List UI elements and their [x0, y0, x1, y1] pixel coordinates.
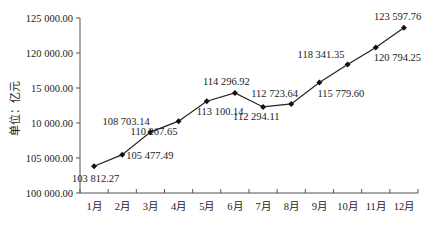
data-label: 112 723.64 [251, 88, 299, 99]
x-tick-label: 2月 [115, 201, 130, 212]
x-tick-label: 1月 [86, 201, 101, 212]
y-tick-label: 100 000.00 [26, 188, 73, 199]
x-tick-label: 8月 [284, 201, 299, 212]
data-label: 105 477.49 [126, 150, 173, 161]
data-labels: 103 812.27105 477.49108 703.14110 267.65… [72, 11, 421, 184]
x-tick-label: 6月 [227, 201, 242, 212]
diamond-marker-icon [260, 104, 266, 110]
diamond-marker-icon [91, 163, 97, 169]
x-tick-label: 3月 [143, 201, 158, 212]
x-tick-label: 10月 [337, 201, 358, 212]
x-tick-label: 11月 [366, 201, 386, 212]
x-tick-label: 7月 [255, 201, 270, 212]
data-label: 114 296.92 [203, 76, 250, 87]
y-tick-label: 10 000.00 [31, 118, 73, 129]
x-tick-label: 12月 [394, 201, 415, 212]
y-tick-label: 120 000.00 [26, 48, 73, 59]
x-tick-label: 9月 [312, 201, 327, 212]
data-label: 110 267.65 [131, 126, 178, 137]
line-chart: 100 000.00105 000.0010 000.0015 000.0012… [0, 0, 428, 226]
x-axis: 1月2月3月4月5月6月7月8月9月10月11月12月 [80, 189, 418, 212]
x-tick-label: 5月 [199, 201, 214, 212]
y-tick-label: 125 000.00 [26, 13, 73, 24]
data-label: 123 597.76 [374, 11, 421, 22]
data-label: 112 294.11 [233, 111, 279, 122]
y-tick-label: 15 000.00 [31, 83, 73, 94]
data-label: 115 779.60 [317, 88, 364, 99]
data-label: 103 812.27 [72, 173, 119, 184]
data-label: 120 794.25 [374, 52, 421, 63]
y-axis-label: 单位：亿元 [8, 81, 22, 136]
y-tick-label: 105 000.00 [26, 153, 73, 164]
diamond-marker-icon [232, 90, 238, 96]
x-tick-label: 4月 [171, 201, 186, 212]
diamond-marker-icon [345, 62, 351, 68]
y-axis: 100 000.00105 000.0010 000.0015 000.0012… [26, 13, 80, 199]
data-label: 118 341.35 [298, 49, 345, 60]
